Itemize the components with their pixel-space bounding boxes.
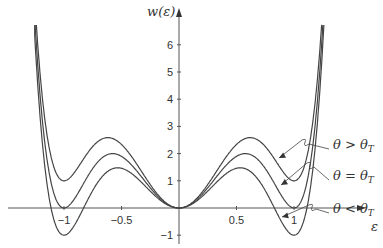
x-axis-label: ε [371,219,378,234]
y-tick-label: 1 [167,175,173,187]
y-tick-label: −1 [160,229,173,241]
leader-line [316,209,329,213]
x-tick-label: 0.5 [229,214,244,226]
y-tick-label: 3 [167,120,173,132]
double-well-potential-chart: −1−0.50.51−1123456 θ > θTθ = θTθ < θT w(… [0,0,383,248]
x-tick-label: 1 [291,214,297,226]
y-axis-arrow-icon [176,8,182,17]
y-tick-label: 4 [167,93,173,105]
y-axis-label: w(ε) [147,4,175,19]
x-tick-label: −1 [58,214,71,226]
annotations: θ > θTθ = θTθ < θT [279,137,375,218]
y-tick-label: 5 [167,66,173,78]
leader-line [314,167,329,180]
series-label: θ = θT [333,168,375,185]
series-label: θ > θT [333,137,375,154]
x-tick-label: −0.5 [111,214,133,226]
y-tick-label: 6 [167,39,173,51]
series-label: θ < θT [333,201,375,218]
y-tick-label: 2 [167,148,173,160]
arrowhead-icon [282,213,289,219]
